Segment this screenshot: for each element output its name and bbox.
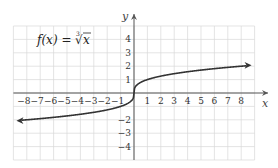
x-tick-label: 5 bbox=[198, 96, 204, 106]
x-tick-label: −1 bbox=[111, 96, 124, 106]
x-tick-label: −5 bbox=[57, 96, 71, 106]
y-tick-label: 2 bbox=[125, 61, 131, 71]
title-lhs: f(x) bbox=[36, 33, 58, 47]
x-tick-label: 7 bbox=[225, 96, 231, 106]
y-tick-label: 1 bbox=[125, 75, 131, 85]
svg-text:f(x)=: f(x)= bbox=[36, 33, 72, 47]
x-tick-label: 4 bbox=[185, 96, 191, 106]
x-tick-label: −6 bbox=[44, 96, 58, 106]
x-tick-label: 2 bbox=[158, 96, 164, 106]
y-tick-label: −4 bbox=[118, 142, 132, 152]
x-tick-label: −2 bbox=[98, 96, 111, 106]
title-equals: = bbox=[62, 33, 72, 47]
y-tick-label: 3 bbox=[125, 48, 131, 58]
radical-index: 3 bbox=[76, 30, 80, 37]
y-axis-label: y bbox=[121, 10, 129, 23]
radicand: x bbox=[83, 33, 90, 47]
y-tick-label: 4 bbox=[125, 34, 131, 44]
x-tick-label: −3 bbox=[84, 96, 98, 106]
x-tick-label: 8 bbox=[238, 96, 244, 106]
x-tick-label: −4 bbox=[71, 96, 85, 106]
y-tick-label: −2 bbox=[118, 115, 131, 125]
x-tick-label: 1 bbox=[145, 96, 151, 106]
y-tick-label: −3 bbox=[118, 128, 132, 138]
x-axis-label: x bbox=[262, 97, 269, 110]
x-tick-label: 6 bbox=[212, 96, 218, 106]
x-tick-label: 3 bbox=[171, 96, 177, 106]
chart-title: f(x)= √ 3 x bbox=[36, 30, 91, 47]
x-tick-label: −8 bbox=[17, 96, 31, 106]
chart: −8−7−6−5−4−3−2−112345678−4−3−21234 y x f… bbox=[0, 0, 278, 168]
x-tick-label: −7 bbox=[31, 96, 45, 106]
